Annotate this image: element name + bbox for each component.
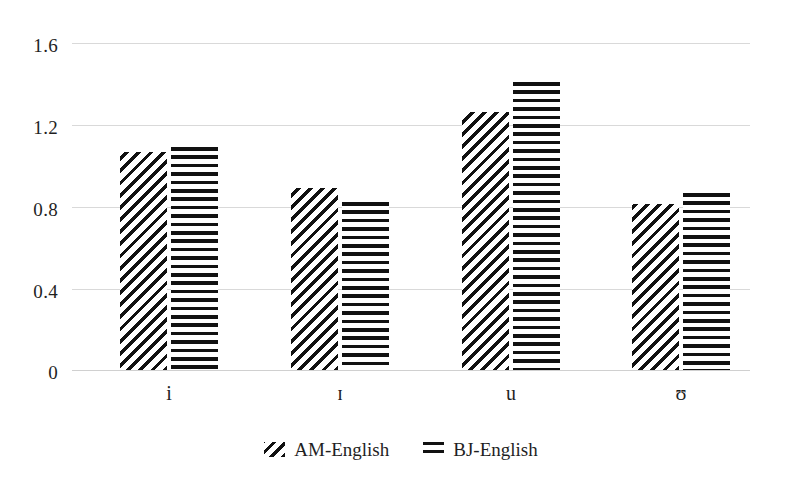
legend-label-bj-english: BJ-English	[453, 440, 537, 459]
bar-bj-english-i	[171, 147, 218, 370]
x-tick-label-i: i	[120, 378, 218, 408]
plot-area	[72, 43, 750, 370]
bar-chart: 1.6 1.2 0.8 0.4 0 i ɪ u ʊ	[0, 0, 802, 499]
diagonal-hatch-swatch-icon	[264, 442, 285, 457]
x-axis-tick-labels: i ɪ u ʊ	[72, 378, 750, 412]
bar-am-english-upsilon	[632, 204, 679, 370]
y-tick-label-0: 0	[10, 363, 58, 382]
x-tick-label-u: u	[462, 378, 560, 408]
legend-entry-am-english: AM-English	[264, 440, 389, 459]
y-tick-label-1: 0.4	[10, 282, 58, 301]
chart-legend: AM-English BJ-English	[0, 440, 802, 459]
y-tick-label-4: 1.6	[10, 36, 58, 55]
gridline-0	[72, 370, 750, 371]
bar-bj-english-u	[513, 82, 560, 370]
bar-bj-english-small-cap-i	[342, 202, 389, 370]
horizontal-hatch-swatch-icon	[423, 442, 444, 457]
y-tick-label-3: 1.2	[10, 118, 58, 137]
bar-am-english-i	[120, 152, 167, 370]
x-tick-label-upsilon: ʊ	[632, 378, 730, 408]
bar-bj-english-upsilon	[683, 193, 730, 370]
x-tick-label-small-cap-i: ɪ	[291, 378, 389, 408]
y-tick-label-2: 0.8	[10, 200, 58, 219]
bar-am-english-u	[462, 112, 509, 370]
legend-label-am-english: AM-English	[294, 440, 389, 459]
legend-entry-bj-english: BJ-English	[423, 440, 537, 459]
bars-layer	[72, 43, 750, 370]
bar-am-english-small-cap-i	[291, 188, 338, 370]
